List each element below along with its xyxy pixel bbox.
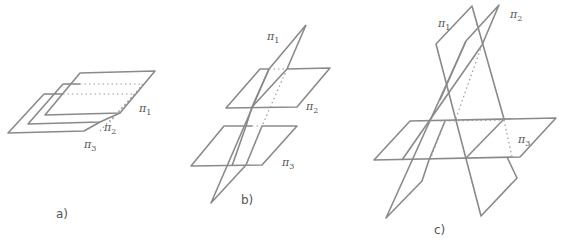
figure-a-caption: a)	[56, 207, 68, 221]
figure-c-caption: c)	[434, 223, 445, 237]
figure-c: π1 π2 π3 c)	[374, 5, 556, 237]
figure-b-plane-2	[226, 68, 330, 108]
figure-c-plane-2	[466, 5, 499, 45]
figure-a-label-pi2: π2	[103, 121, 116, 136]
figure-b: π1 π2 π3 b)	[191, 25, 330, 207]
figure-c-label-pi2: π2	[509, 8, 522, 23]
figure-a-plane-2	[28, 84, 120, 124]
figure-b-label-pi2: π2	[305, 100, 318, 115]
figure-a: π1 π2 π3 a)	[8, 71, 155, 221]
figure-b-plane-1	[211, 25, 306, 203]
figure-c-label-pi3: π3	[517, 133, 530, 148]
figure-a-label-pi1: π1	[138, 102, 151, 117]
figure-b-label-pi1: π1	[266, 30, 279, 45]
figure-b-label-pi3: π3	[281, 156, 294, 171]
figure-a-label-pi3: π3	[83, 138, 96, 153]
figure-c-label-pi1: π1	[437, 17, 450, 32]
planes-diagram: π1 π2 π3 a) π1 π2 π3 b)	[0, 0, 563, 243]
figure-b-caption: b)	[241, 193, 253, 207]
